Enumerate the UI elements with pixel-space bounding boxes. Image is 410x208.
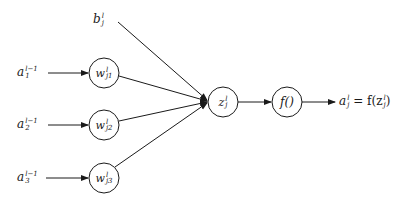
output-label: alj = f(zlj) <box>339 95 390 108</box>
input-label-1: al−11 <box>17 66 38 79</box>
input-label-3: al−13 <box>17 171 38 184</box>
bias-label: blj <box>93 13 104 26</box>
activation-label: f() <box>272 87 302 117</box>
edge-w3-z <box>115 103 207 167</box>
sum-label: zlj <box>208 87 238 117</box>
edge-w2-z <box>119 102 207 121</box>
weight-label-3: wlj3 <box>89 163 119 193</box>
weight-label-1: wlj1 <box>89 58 119 88</box>
input-label-2: al−12 <box>17 118 38 131</box>
weight-label-2: wlj2 <box>89 110 119 140</box>
